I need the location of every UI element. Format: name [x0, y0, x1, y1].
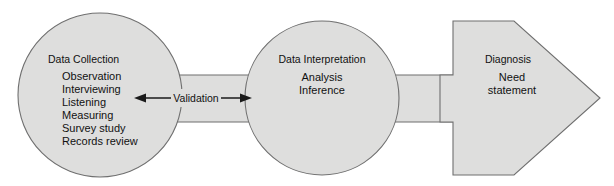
diagnosis-tail-seam — [441, 76, 454, 121]
data-interpretation-circle — [245, 21, 399, 175]
data-collection-item-3: Measuring — [62, 109, 113, 121]
validation-label: Validation — [173, 92, 218, 104]
data-collection-item-1: Interviewing — [62, 83, 121, 95]
data-collection-item-2: Listening — [62, 96, 106, 108]
process-flow-diagram: Data Collection Observation Interviewing… — [0, 0, 614, 186]
data-interpretation-item-0: Analysis — [302, 71, 343, 83]
diagnosis-item-1: statement — [488, 84, 536, 96]
data-collection-item-4: Survey study — [62, 122, 126, 134]
data-interpretation-heading: Data Interpretation — [279, 53, 366, 65]
data-collection-item-0: Observation — [62, 70, 121, 82]
data-collection-item-5: Records review — [62, 135, 138, 147]
diagnosis-heading: Diagnosis — [485, 53, 531, 65]
data-interpretation-item-1: Inference — [299, 84, 345, 96]
flow-canvas: Data Collection Observation Interviewing… — [0, 0, 614, 186]
diagnosis-item-0: Need — [499, 71, 525, 83]
data-collection-heading: Data Collection — [48, 53, 119, 65]
data-collection-circle — [18, 13, 182, 177]
diagnosis-arrow-shape — [440, 21, 600, 175]
